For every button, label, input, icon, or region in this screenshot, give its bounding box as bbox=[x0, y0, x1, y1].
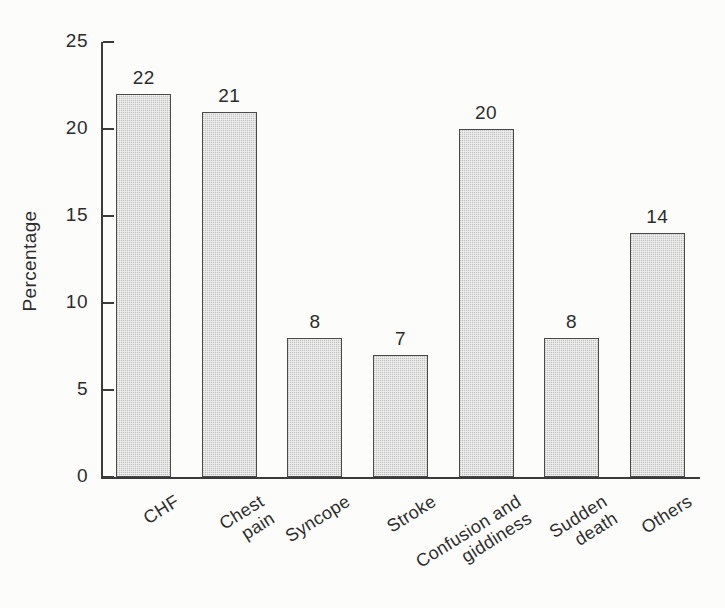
y-axis-tick-label: 15 bbox=[42, 204, 88, 226]
bar-value-label: 14 bbox=[627, 206, 687, 228]
y-axis-tick-label: 0 bbox=[42, 465, 88, 487]
bar-value-label: 8 bbox=[285, 311, 345, 333]
y-axis-tick bbox=[103, 302, 114, 304]
bar[interactable] bbox=[373, 355, 428, 477]
bar-value-label: 8 bbox=[542, 311, 602, 333]
y-axis-tick bbox=[103, 215, 114, 217]
y-axis-title: Percentage bbox=[19, 201, 41, 321]
y-axis-tick bbox=[103, 41, 114, 43]
bar[interactable] bbox=[287, 338, 342, 477]
bar[interactable] bbox=[544, 338, 599, 477]
bar-value-label: 22 bbox=[114, 67, 174, 89]
y-axis-tick-label: 10 bbox=[42, 291, 88, 313]
y-axis-tick bbox=[103, 476, 114, 478]
x-axis-line bbox=[101, 477, 700, 479]
bar-chart: Percentage 0510152025 22CHF21Chest pain8… bbox=[0, 0, 725, 608]
bar-value-label: 21 bbox=[199, 85, 259, 107]
bar[interactable] bbox=[202, 112, 257, 477]
y-axis-tick bbox=[103, 128, 114, 130]
bar[interactable] bbox=[116, 94, 171, 477]
y-axis-tick-label: 25 bbox=[42, 30, 88, 52]
bar-value-label: 20 bbox=[456, 102, 516, 124]
y-axis-line bbox=[101, 42, 103, 478]
bar[interactable] bbox=[630, 233, 685, 477]
y-axis-tick bbox=[103, 389, 114, 391]
bar[interactable] bbox=[459, 129, 514, 477]
bar-value-label: 7 bbox=[371, 328, 431, 350]
y-axis-tick-label: 20 bbox=[42, 117, 88, 139]
y-axis-tick-label: 5 bbox=[42, 378, 88, 400]
